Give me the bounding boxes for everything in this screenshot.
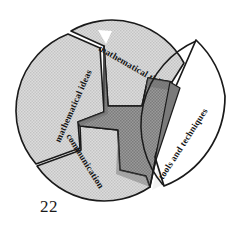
figure-root: mathematical ideas mathematical thinking… xyxy=(0,0,244,236)
pinwheel-diagram: mathematical ideas mathematical thinking… xyxy=(0,0,244,236)
page-number: 22 xyxy=(40,198,58,215)
